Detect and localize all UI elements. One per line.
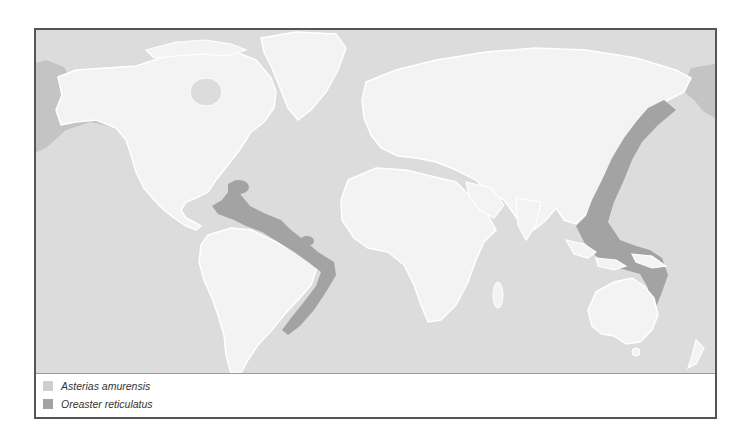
landmass-madagascar bbox=[493, 282, 503, 308]
legend-item-oreaster-reticulatus: Oreaster reticulatus bbox=[43, 397, 153, 411]
legend-swatch-dark bbox=[43, 399, 53, 409]
hudson-bay bbox=[190, 78, 222, 106]
range-oreaster-bermuda bbox=[229, 180, 249, 194]
legend-label: Asterias amurensis bbox=[61, 380, 150, 392]
world-map bbox=[36, 30, 715, 374]
legend-label: Oreaster reticulatus bbox=[61, 398, 153, 410]
map-figure: Asterias amurensis Oreaster reticulatus bbox=[34, 28, 717, 419]
legend-item-asterias-amurensis: Asterias amurensis bbox=[43, 379, 150, 393]
world-map-svg bbox=[36, 30, 715, 373]
landmass-tasmania bbox=[632, 348, 640, 356]
map-legend: Asterias amurensis Oreaster reticulatus bbox=[36, 374, 715, 417]
legend-swatch-light bbox=[43, 381, 53, 391]
range-oreaster-mid-atlantic bbox=[300, 236, 314, 246]
